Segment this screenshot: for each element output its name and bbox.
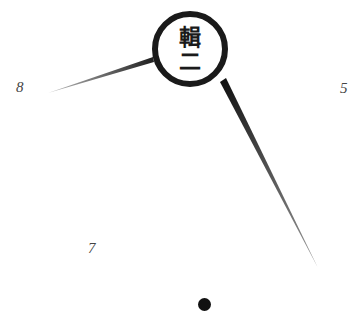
center-dot — [198, 298, 211, 311]
numeral-7: 7 — [88, 241, 96, 256]
clock-hub: 輯 二 — [152, 11, 228, 87]
clock-face: 輯 二 8 5 7 — [0, 0, 364, 311]
hub-label-line2: 二 — [179, 49, 201, 73]
minute-hand — [220, 78, 318, 268]
numeral-8: 8 — [16, 80, 24, 95]
numeral-5: 5 — [340, 81, 348, 96]
hub-label-line1: 輯 — [179, 25, 201, 49]
hour-hand — [48, 57, 154, 93]
